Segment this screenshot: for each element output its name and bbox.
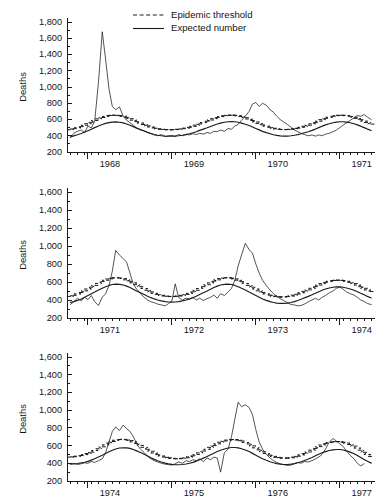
chart-panel-1971-1974: 2004006008001,0001,2001,4001,60019711972…: [0, 172, 388, 339]
x-tick-label: 1973: [268, 325, 288, 335]
y-tick-label: 800: [47, 423, 62, 433]
chart-plot-1: 2004006008001,0001,2001,4001,6001,800196…: [0, 0, 388, 175]
epidemic-deaths-figure: 2004006008001,0001,2001,4001,6001,800196…: [0, 0, 388, 502]
y-tick-label: 1,600: [39, 352, 62, 362]
chart-plot-3: 2004006008001,0001,2001,4001,60019741975…: [0, 339, 388, 502]
y-axis-title: Deaths: [17, 240, 28, 270]
x-tick-label: 1977: [352, 488, 372, 498]
y-tick-label: 1,200: [39, 223, 62, 233]
series-observed-deaths: [70, 243, 371, 306]
y-tick-label: 400: [47, 131, 62, 141]
y-tick-label: 1,400: [39, 205, 62, 215]
series-expected-number: [70, 448, 371, 465]
x-tick-label: 1970: [268, 159, 288, 169]
y-tick-label: 400: [47, 295, 62, 305]
y-axis-title: Deaths: [17, 72, 28, 102]
y-tick-label: 800: [47, 98, 62, 108]
legend-label-expected-number: Expected number: [171, 22, 247, 33]
series-expected-number: [70, 122, 371, 137]
y-tick-label: 200: [47, 147, 62, 157]
series-observed-deaths: [70, 402, 364, 472]
x-tick-label: 1969: [184, 159, 204, 169]
y-tick-label: 1,800: [39, 17, 62, 27]
y-tick-label: 600: [47, 277, 62, 287]
y-tick-label: 1,400: [39, 49, 62, 59]
x-tick-label: 1968: [100, 159, 120, 169]
y-tick-label: 1,400: [39, 370, 62, 380]
chart-panel-1968-1971: 2004006008001,0001,2001,4001,6001,800196…: [0, 0, 388, 175]
plot-top-mask: [68, 172, 388, 186]
x-tick-label: 1971: [100, 325, 120, 335]
y-tick-label: 800: [47, 259, 62, 269]
x-tick-label: 1974: [352, 325, 372, 335]
y-tick-label: 1,600: [39, 187, 62, 197]
y-axis-title: Deaths: [17, 404, 28, 434]
y-tick-label: 1,000: [39, 405, 62, 415]
y-tick-label: 1,200: [39, 387, 62, 397]
y-tick-label: 1,000: [39, 82, 62, 92]
chart-plot-2: 2004006008001,0001,2001,4001,60019711972…: [0, 172, 388, 339]
series-epidemic-threshold: [67, 439, 375, 458]
x-tick-label: 1971: [352, 159, 372, 169]
x-tick-label: 1974: [100, 488, 120, 498]
x-tick-label: 1972: [184, 325, 204, 335]
y-tick-label: 400: [47, 458, 62, 468]
y-tick-label: 1,200: [39, 66, 62, 76]
chart-panel-1974-1977: 2004006008001,0001,2001,4001,60019741975…: [0, 339, 388, 502]
x-tick-label: 1975: [184, 488, 204, 498]
x-tick-label: 1976: [268, 488, 288, 498]
y-tick-label: 200: [47, 476, 62, 486]
plot-top-mask: [68, 339, 388, 351]
y-tick-label: 600: [47, 441, 62, 451]
y-tick-label: 200: [47, 313, 62, 323]
legend-label-epidemic-threshold: Epidemic threshold: [171, 9, 253, 20]
y-tick-label: 1,000: [39, 241, 62, 251]
y-tick-label: 1,600: [39, 33, 62, 43]
y-tick-label: 600: [47, 114, 62, 124]
